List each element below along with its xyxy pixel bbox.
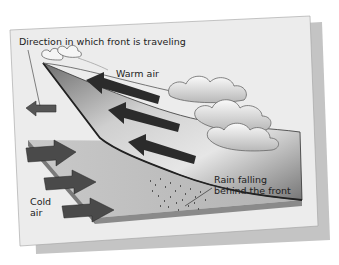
cold-air-label: Cold air (30, 196, 51, 218)
rain-label: Rain falling behind the front (214, 174, 291, 196)
cold-air-label-line2: air (30, 207, 51, 218)
rain-label-line1: Rain falling (214, 174, 291, 185)
direction-label: Direction in which front is traveling (19, 36, 186, 47)
rain-label-line2: behind the front (214, 185, 291, 196)
warm-air-label: Warm air (116, 68, 159, 79)
warm-front-diagram: Direction in which front is traveling Wa… (0, 0, 339, 265)
cold-air-label-line1: Cold (30, 196, 51, 207)
